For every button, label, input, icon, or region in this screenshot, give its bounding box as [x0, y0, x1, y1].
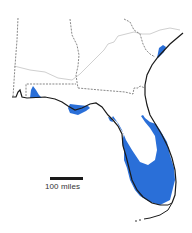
river-line [14, 28, 180, 80]
key-dot [135, 220, 137, 222]
scale-bar [50, 177, 83, 180]
florida-map [0, 0, 192, 233]
key-dot [139, 219, 141, 221]
highlight-peninsula [112, 115, 175, 205]
highlight-mobile-bay [30, 86, 42, 98]
florida-georgia-border [78, 86, 145, 94]
georgia-southcarolina-border [124, 19, 155, 57]
scale-label: 100 miles [45, 182, 80, 191]
alabama-mississippi-border [13, 18, 18, 97]
